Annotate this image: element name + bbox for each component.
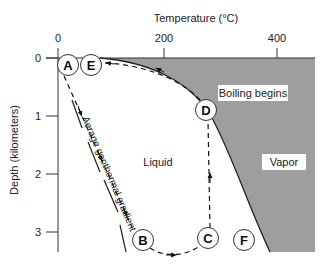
- svg-text:B: B: [138, 233, 147, 248]
- geothermal-gradient-label: Aerage geothermal gradient: [80, 114, 139, 233]
- point-c: C: [198, 228, 219, 249]
- y-tick-label-3: 3: [35, 226, 41, 238]
- y-tick-label-2: 2: [35, 168, 41, 180]
- point-b: B: [133, 230, 154, 251]
- svg-text:F: F: [240, 233, 248, 248]
- point-a: A: [58, 55, 79, 76]
- point-d: D: [196, 100, 217, 121]
- point-f: F: [234, 230, 255, 251]
- svg-text:D: D: [201, 103, 210, 118]
- svg-text:A: A: [63, 58, 73, 73]
- path-c-to-d: [208, 120, 210, 228]
- svg-text:C: C: [203, 231, 213, 246]
- y-axis-title: Depth (kilometers): [8, 105, 20, 195]
- svg-text:E: E: [87, 58, 96, 73]
- x-tick-label-200: 200: [155, 32, 173, 44]
- x-tick-label-0: 0: [55, 32, 61, 44]
- phase-diagram: Temperature (°C) 0 200 400 Depth (kilome…: [0, 0, 329, 266]
- x-tick-label-400: 400: [268, 32, 286, 44]
- liquid-label: Liquid: [143, 156, 172, 168]
- y-tick-label-1: 1: [35, 110, 41, 122]
- path-b-to-c: [150, 246, 200, 255]
- boiling-begins-label: Boiling begins: [219, 87, 288, 99]
- x-axis-title: Temperature (°C): [154, 12, 238, 24]
- y-tick-label-0: 0: [35, 52, 41, 64]
- point-e: E: [81, 55, 102, 76]
- vapor-label: Vapor: [270, 156, 299, 168]
- geothermal-gradient-line-4: [120, 225, 126, 252]
